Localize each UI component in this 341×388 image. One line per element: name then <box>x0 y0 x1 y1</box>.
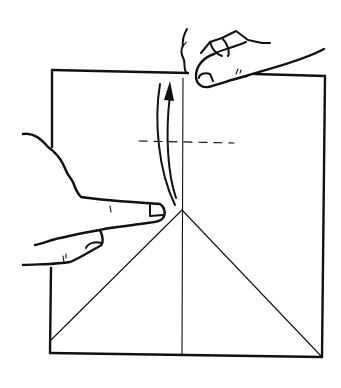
center-crease <box>182 78 183 355</box>
diagram-svg <box>0 0 341 388</box>
curved-fold-arrow <box>157 81 176 205</box>
right-hand <box>181 29 324 87</box>
origami-diagram <box>0 0 341 388</box>
paper-sheet <box>50 70 325 357</box>
dashed-fold-line <box>139 141 234 143</box>
left-hand <box>23 134 165 265</box>
